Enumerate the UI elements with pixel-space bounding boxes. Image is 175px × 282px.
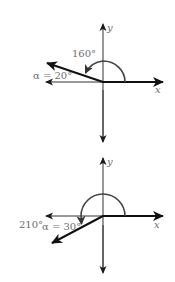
diagram-160: y x 160° α = 20° <box>33 22 163 142</box>
y-axis-label: y <box>106 156 113 167</box>
x-axis-label: x <box>155 84 161 95</box>
reference-angle-diagrams: y x 160° α = 20° y x 210° α = 30° <box>0 0 175 282</box>
angle-label: 210° <box>19 219 43 230</box>
x-axis-label: x <box>154 219 160 230</box>
y-axis-label: y <box>106 22 113 33</box>
reference-angle-label: α = 20° <box>33 70 72 81</box>
angle-label: 160° <box>72 48 96 59</box>
diagram-210: y x 210° α = 30° <box>19 156 163 273</box>
reference-angle-label: α = 30° <box>42 221 81 232</box>
